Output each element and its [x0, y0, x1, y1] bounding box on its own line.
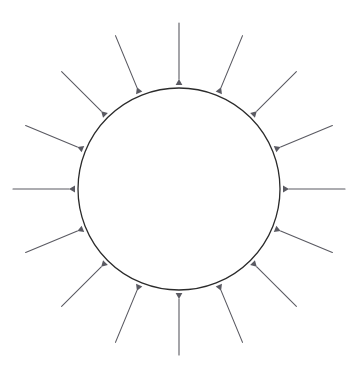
canvas-background [0, 0, 354, 367]
radial-inward-arrow-diagram [0, 0, 354, 367]
figure-root [0, 0, 354, 367]
